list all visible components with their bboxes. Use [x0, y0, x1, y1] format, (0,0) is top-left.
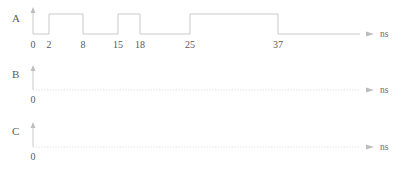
tick-a-2: 8 [81, 40, 86, 50]
tick-a-4: 18 [135, 40, 145, 50]
tick-b-0: 0 [31, 95, 36, 105]
tick-a-0: 0 [31, 40, 36, 50]
tick-labels-c: 0 [0, 114, 403, 171]
tick-a-3: 15 [113, 40, 123, 50]
tick-a-5: 25 [185, 40, 195, 50]
signal-row-b: B 0 ns [0, 57, 403, 114]
unit-label-a: ns [380, 30, 388, 40]
unit-label-b: ns [380, 86, 388, 96]
signal-row-a: A 0 2 8 15 18 25 37 ns [0, 0, 403, 57]
unit-label-c: ns [380, 143, 388, 153]
signal-row-c: C 0 ns [0, 114, 403, 171]
tick-a-1: 2 [47, 40, 52, 50]
tick-labels-a: 0 2 8 15 18 25 37 [0, 0, 403, 57]
timing-diagram-figure: A 0 2 8 15 18 25 37 ns B [0, 0, 403, 172]
tick-c-0: 0 [31, 152, 36, 162]
tick-a-6: 37 [273, 40, 283, 50]
tick-labels-b: 0 [0, 57, 403, 114]
